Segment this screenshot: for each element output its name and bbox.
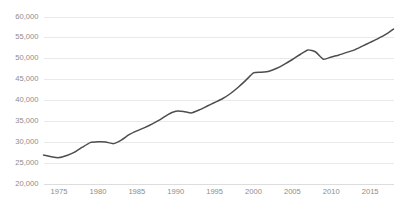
x-tick-label: 1985 [128,187,145,196]
x-tick-label: 1980 [89,187,106,196]
x-tick-label: 2015 [362,187,379,196]
y-tick-label: 55,000 [15,32,38,41]
y-tick-label: 30,000 [15,137,38,146]
x-tick-label: 1995 [206,187,223,196]
chart-canvas: 20,00025,00030,00035,00040,00045,00050,0… [0,0,407,211]
y-tick-label: 20,000 [15,179,38,188]
x-tick-label: 2000 [245,187,262,196]
y-tick-label: 45,000 [15,74,38,83]
y-tick-label: 25,000 [15,158,38,167]
y-tick-label: 60,000 [15,12,38,21]
x-axis-tick-labels: 197519801985199019952000200520102015 [51,187,379,196]
y-tick-label: 40,000 [15,95,38,104]
x-tick-label: 2010 [323,187,340,196]
series-line [44,29,394,158]
line-chart-figure: 20,00025,00030,00035,00040,00045,00050,0… [0,0,407,211]
x-tick-label: 1990 [167,187,184,196]
x-tick-label: 2005 [284,187,301,196]
y-tick-label: 50,000 [15,53,38,62]
y-tick-label: 35,000 [15,116,38,125]
data-series-line [44,29,394,158]
y-axis-tick-labels: 20,00025,00030,00035,00040,00045,00050,0… [15,12,38,188]
x-tick-label: 1975 [51,187,68,196]
